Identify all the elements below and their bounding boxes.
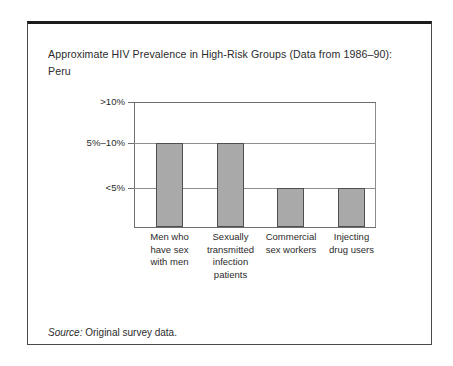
y-axis-line [134, 102, 135, 227]
y-tick-label-mid: 5%–10% [87, 138, 125, 148]
y-tick-label-low: <5% [106, 183, 125, 193]
x-label-sexually-transmitted-infection-patients: Sexually transmitted infection patients [197, 231, 264, 281]
y-tick-mark-mid [128, 143, 134, 144]
x-label-injecting-drug-users: Injecting drug users [323, 231, 380, 256]
y-tick-mark-high [128, 102, 134, 103]
axis-baseline [134, 227, 376, 228]
bar-sexually-transmitted-infection-patients[interactable] [217, 143, 244, 227]
x-label-commercial-sex-workers: Commercial sex workers [260, 231, 322, 256]
bar-men-who-have-sex-with-men[interactable] [156, 143, 183, 227]
gridline-high [134, 102, 376, 103]
bar-injecting-drug-users[interactable] [338, 188, 365, 227]
figure-frame: Approximate HIV Prevalence in High-Risk … [27, 21, 432, 345]
x-label-men-who-have-sex-with-men: Men who have sex with men [139, 231, 200, 269]
bar-commercial-sex-workers[interactable] [277, 188, 304, 227]
y-tick-label-high: >10% [100, 97, 125, 107]
source-label: Source: [48, 327, 82, 338]
plot-right-edge [375, 102, 376, 227]
plot-area: >10% 5%–10% <5% Men who have sex with me… [134, 102, 376, 227]
plot-region: >10% 5%–10% <5% Men who have sex with me… [28, 24, 433, 348]
y-tick-mark-low [128, 188, 134, 189]
source-text: Original survey data. [82, 327, 177, 338]
source-note: Source: Original survey data. [48, 327, 177, 338]
